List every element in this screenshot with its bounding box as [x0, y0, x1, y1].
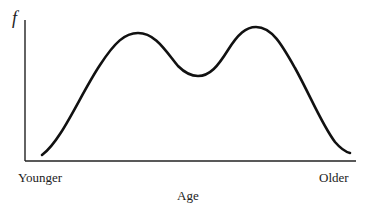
y-axis-label: f — [12, 8, 17, 29]
distribution-curve — [42, 27, 350, 155]
x-axis-end-label: Older — [319, 170, 349, 186]
x-axis-label: Age — [177, 188, 199, 204]
x-axis-start-label: Younger — [18, 170, 62, 186]
